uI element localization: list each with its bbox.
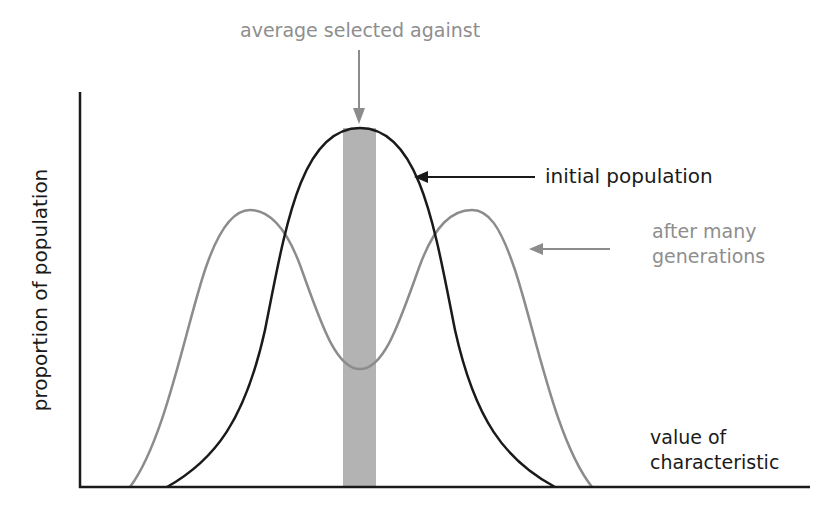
x-axis-label-line1: value of — [650, 426, 726, 448]
average-arrowhead-icon — [353, 108, 365, 124]
after-arrowhead-icon — [529, 243, 543, 255]
average-selected-against-label: average selected against — [240, 19, 480, 41]
selected-against-band — [343, 128, 376, 487]
x-axis-label-line2: characteristic — [650, 451, 779, 473]
initial-population-label: initial population — [545, 164, 713, 188]
y-axis-label: proportion of population — [28, 169, 52, 412]
after-many-label-line1: after many — [652, 220, 756, 242]
after-many-label-line2: generations — [652, 245, 765, 267]
